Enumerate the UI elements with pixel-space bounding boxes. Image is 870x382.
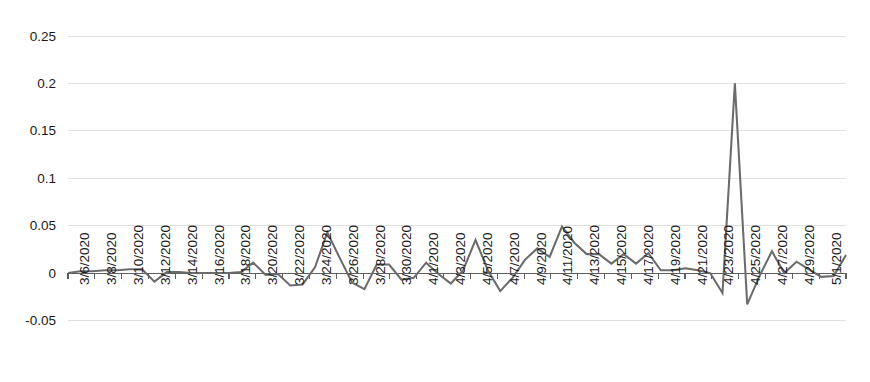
y-axis-tick-label: 0.25 — [30, 29, 56, 44]
x-axis-tick-label: 3/16/2020 — [212, 225, 227, 285]
x-axis-tick-labels: 3/6/20203/8/20203/10/20203/12/20203/14/2… — [77, 225, 843, 285]
x-axis-tick-label: 4/25/2020 — [748, 225, 763, 285]
x-axis-tick-label: 4/27/2020 — [775, 225, 790, 285]
y-axis-tick-labels: 0.250.20.150.10.050-0.05 — [25, 29, 56, 329]
x-axis-tick-label: 4/15/2020 — [614, 225, 629, 285]
x-axis-tick-label: 3/28/2020 — [373, 225, 388, 285]
chart-canvas: 0.250.20.150.10.050-0.05 3/6/20203/8/202… — [0, 0, 870, 382]
x-axis-tick-label: 3/18/2020 — [238, 225, 253, 285]
y-axis-tick-label: 0 — [48, 266, 56, 281]
x-axis-tick-label: 5/1/2020 — [829, 233, 844, 286]
line-chart: 0.250.20.150.10.050-0.05 3/6/20203/8/202… — [0, 0, 870, 382]
x-axis-tick-label: 4/13/2020 — [587, 225, 602, 285]
x-axis-tick-label: 4/9/2020 — [534, 233, 549, 286]
x-axis-tick-label: 4/21/2020 — [695, 225, 710, 285]
y-axis-tick-label: 0.1 — [37, 171, 56, 186]
x-axis-tick-label: 3/8/2020 — [104, 233, 119, 286]
x-axis-tick-label: 3/30/2020 — [399, 225, 414, 285]
x-axis-tick-label: 4/7/2020 — [507, 233, 522, 286]
x-axis-tick-label: 4/23/2020 — [721, 225, 736, 285]
x-axis-tick-label: 3/24/2020 — [319, 225, 334, 285]
x-axis-tick-label: 3/12/2020 — [158, 225, 173, 285]
y-axis-tick-label: 0.2 — [37, 76, 56, 91]
x-axis-tick-label: 3/20/2020 — [265, 225, 280, 285]
y-axis-tick-label: 0.05 — [30, 218, 56, 233]
x-axis-tick-label: 3/10/2020 — [131, 225, 146, 285]
x-axis-tick-label: 4/19/2020 — [668, 225, 683, 285]
x-axis-tick-label: 4/11/2020 — [560, 226, 575, 285]
x-axis-tick-label: 4/5/2020 — [480, 233, 495, 286]
y-axis-tick-label: 0.15 — [30, 123, 56, 138]
x-axis-tick-label: 4/17/2020 — [641, 225, 656, 285]
y-axis-tick-label: -0.05 — [25, 313, 56, 328]
x-axis-tick-label: 3/14/2020 — [185, 225, 200, 285]
x-axis-tick-label: 4/3/2020 — [453, 233, 468, 286]
x-axis-tick-label: 3/26/2020 — [346, 225, 361, 285]
x-axis-tick-label: 4/29/2020 — [802, 225, 817, 285]
x-axis-tick-label: 4/1/2020 — [426, 233, 441, 286]
x-axis-tick-label: 3/22/2020 — [292, 225, 307, 285]
x-axis-tick-label: 3/6/2020 — [77, 233, 92, 286]
